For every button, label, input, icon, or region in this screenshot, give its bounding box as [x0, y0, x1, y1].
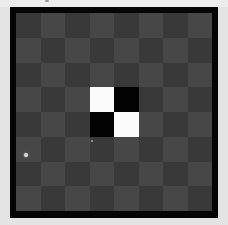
board-cell-r0-c7[interactable] — [188, 13, 213, 38]
board-cell-r5-c1[interactable] — [41, 137, 66, 162]
board-cell-r0-c0[interactable] — [16, 13, 41, 38]
board-frame — [10, 7, 218, 218]
marker-dot-icon — [91, 140, 93, 142]
board-cell-r5-c4[interactable] — [114, 137, 139, 162]
board-cell-r7-c3[interactable] — [90, 186, 115, 211]
board-cell-r2-c1[interactable] — [41, 63, 66, 88]
board-cell-r7-c2[interactable] — [65, 186, 90, 211]
board-cell-r4-c0[interactable] — [16, 112, 41, 137]
board-cell-r1-c7[interactable] — [188, 38, 213, 63]
board-cell-r2-c7[interactable] — [188, 63, 213, 88]
board-cell-r1-c5[interactable] — [139, 38, 164, 63]
board-cell-r2-c4[interactable] — [114, 63, 139, 88]
game-screen — [0, 0, 228, 225]
board-cell-r5-c0[interactable] — [16, 137, 41, 162]
board-cell-r1-c4[interactable] — [114, 38, 139, 63]
marker-dot-icon — [24, 153, 28, 157]
board-cell-r7-c7[interactable] — [188, 186, 213, 211]
board-cell-r0-c3[interactable] — [90, 13, 115, 38]
board-cell-r2-c0[interactable] — [16, 63, 41, 88]
board-cell-r1-c6[interactable] — [163, 38, 188, 63]
board-cell-r0-c1[interactable] — [41, 13, 66, 38]
game-board[interactable] — [16, 13, 212, 211]
board-cell-r5-c2[interactable] — [65, 137, 90, 162]
board-cell-r2-c2[interactable] — [65, 63, 90, 88]
board-cell-r4-c4[interactable] — [114, 112, 139, 137]
board-cell-r3-c2[interactable] — [65, 87, 90, 112]
board-cell-r3-c1[interactable] — [41, 87, 66, 112]
board-cell-r4-c6[interactable] — [163, 112, 188, 137]
board-cell-r6-c4[interactable] — [114, 162, 139, 187]
board-cell-r5-c6[interactable] — [163, 137, 188, 162]
board-cell-r6-c2[interactable] — [65, 162, 90, 187]
board-cell-r6-c1[interactable] — [41, 162, 66, 187]
board-cell-r5-c5[interactable] — [139, 137, 164, 162]
board-cell-r6-c5[interactable] — [139, 162, 164, 187]
board-cell-r3-c7[interactable] — [188, 87, 213, 112]
board-cell-r3-c5[interactable] — [139, 87, 164, 112]
board-cell-r0-c5[interactable] — [139, 13, 164, 38]
board-cell-r3-c0[interactable] — [16, 87, 41, 112]
board-cell-r1-c2[interactable] — [65, 38, 90, 63]
board-cell-r2-c6[interactable] — [163, 63, 188, 88]
board-cell-r2-c5[interactable] — [139, 63, 164, 88]
board-cell-r7-c5[interactable] — [139, 186, 164, 211]
top-strip — [0, 0, 228, 7]
board-cell-r6-c0[interactable] — [16, 162, 41, 187]
board-cell-r3-c4[interactable] — [114, 87, 139, 112]
board-cell-r5-c7[interactable] — [188, 137, 213, 162]
board-cell-r7-c1[interactable] — [41, 186, 66, 211]
board-cell-r6-c3[interactable] — [90, 162, 115, 187]
board-cell-r0-c4[interactable] — [114, 13, 139, 38]
board-cell-r6-c7[interactable] — [188, 162, 213, 187]
board-cell-r4-c5[interactable] — [139, 112, 164, 137]
board-cell-r1-c0[interactable] — [16, 38, 41, 63]
board-cell-r3-c6[interactable] — [163, 87, 188, 112]
board-cell-r1-c3[interactable] — [90, 38, 115, 63]
board-cell-r4-c3[interactable] — [90, 112, 115, 137]
board-cell-r7-c0[interactable] — [16, 186, 41, 211]
board-cell-r4-c1[interactable] — [41, 112, 66, 137]
board-cell-r6-c6[interactable] — [163, 162, 188, 187]
board-cell-r4-c7[interactable] — [188, 112, 213, 137]
board-cell-r4-c2[interactable] — [65, 112, 90, 137]
board-cell-r7-c4[interactable] — [114, 186, 139, 211]
board-cell-r7-c6[interactable] — [163, 186, 188, 211]
board-cell-r0-c2[interactable] — [65, 13, 90, 38]
board-cell-r2-c3[interactable] — [90, 63, 115, 88]
board-cell-r5-c3[interactable] — [90, 137, 115, 162]
board-cell-r0-c6[interactable] — [163, 13, 188, 38]
top-mark-icon — [45, 0, 49, 2]
board-cell-r1-c1[interactable] — [41, 38, 66, 63]
board-cell-r3-c3[interactable] — [90, 87, 115, 112]
